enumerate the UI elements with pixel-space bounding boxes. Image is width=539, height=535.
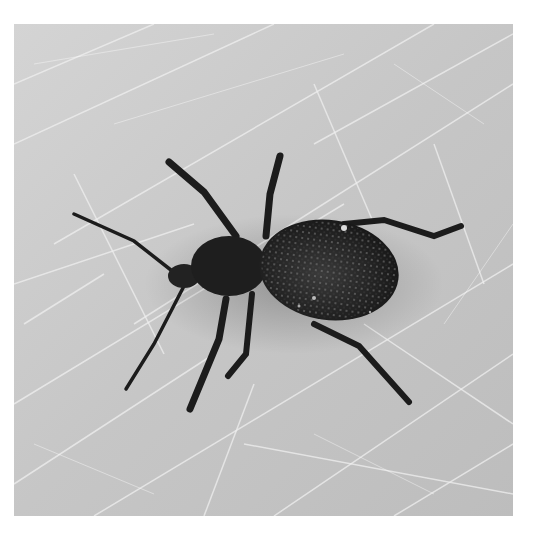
photo-canvas xyxy=(14,24,513,516)
pronotum xyxy=(191,236,267,296)
beetle-photo xyxy=(14,24,513,516)
